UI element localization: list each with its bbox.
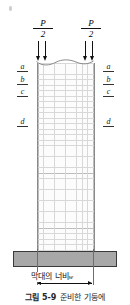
- paper-speck: [9, 6, 12, 11]
- side-label-right-a: a: [103, 63, 114, 72]
- width-dimension-line: [38, 283, 92, 284]
- side-label-right-b: b: [103, 76, 114, 85]
- figure-caption: 그림 5-9준비한 기둥에: [0, 293, 130, 303]
- figure-column-buckling-diagram: P 2 P 2 a b c d a b c d 막대의 너비w 그림 5-9준비…: [0, 0, 130, 305]
- width-dimension-variable: w: [69, 273, 74, 281]
- base-plate: [13, 251, 117, 267]
- width-dimension-label-text: 막대의 너비: [31, 272, 69, 281]
- side-label-right-d: d: [103, 118, 114, 127]
- side-label-left-d: d: [17, 118, 28, 127]
- extension-line-right: [93, 249, 94, 285]
- load-label-left: P 2: [33, 18, 53, 39]
- side-label-left-a: a: [17, 63, 28, 72]
- load-right-denominator: 2: [81, 29, 101, 39]
- load-right-numerator: P: [81, 18, 101, 29]
- side-label-left-b: b: [17, 76, 28, 85]
- load-arrow-left-2: [45, 41, 46, 57]
- load-arrow-right-1: [85, 41, 86, 57]
- load-label-right: P 2: [81, 18, 101, 39]
- column-top-edge: [36, 58, 94, 67]
- load-left-denominator: 2: [33, 29, 53, 39]
- load-arrow-right-2: [92, 41, 93, 57]
- figure-caption-number: 그림 5-9: [25, 293, 56, 302]
- figure-caption-text: 준비한 기둥에: [60, 293, 105, 302]
- load-left-numerator: P: [33, 18, 53, 29]
- load-arrow-left-1: [38, 41, 39, 57]
- column-bar: [37, 63, 95, 251]
- width-dimension-label: 막대의 너비w: [30, 272, 74, 282]
- side-label-right-c: c: [103, 88, 114, 97]
- side-label-left-c: c: [17, 88, 28, 97]
- width-dimension-arrow-right: [88, 281, 92, 285]
